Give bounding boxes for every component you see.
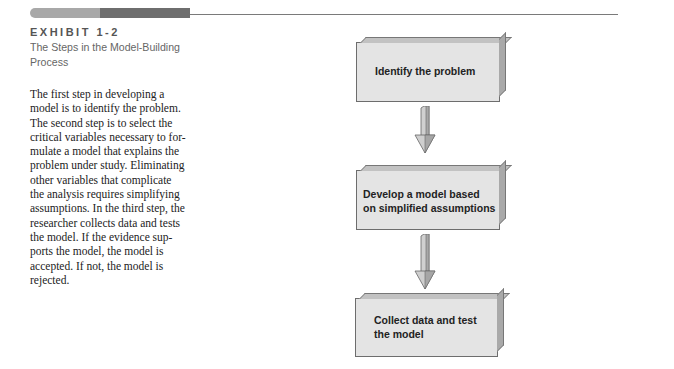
caption-line: The first step in developing a bbox=[30, 87, 230, 101]
down-arrow-icon bbox=[413, 106, 437, 154]
step-label: Collect data and test the model bbox=[374, 313, 477, 341]
caption-line: the analysis requires simplifying bbox=[30, 187, 230, 201]
caption-line: ports the model, the model is bbox=[30, 244, 230, 258]
exhibit-number: EXHIBIT 1-2 bbox=[30, 26, 120, 38]
header-rule bbox=[190, 14, 618, 15]
caption-line: The second step is to select the bbox=[30, 116, 230, 130]
exhibit-title: The Steps in the Model-Building Process bbox=[30, 40, 205, 70]
step-label: Identify the problem bbox=[375, 64, 475, 78]
caption-line: model is to identify the problem. bbox=[30, 101, 230, 115]
down-arrow-icon bbox=[413, 234, 437, 290]
caption-line: assumptions. In the third step, the bbox=[30, 201, 230, 215]
caption-line: other variables that complicate bbox=[30, 173, 230, 187]
caption-line: mulate a model that explains the bbox=[30, 144, 230, 158]
caption-line: researcher collects data and tests bbox=[30, 216, 230, 230]
step-label: Develop a model based on simplified assu… bbox=[363, 187, 495, 215]
exhibit-header-bar bbox=[30, 8, 190, 18]
caption-line: critical variables necessary to for- bbox=[30, 130, 230, 144]
caption-line: accepted. If not, the model is bbox=[30, 259, 230, 273]
flow-step-develop-model: Develop a model based on simplified assu… bbox=[356, 170, 500, 230]
caption-line: the model. If the evidence sup- bbox=[30, 230, 230, 244]
caption-line: rejected. bbox=[30, 273, 230, 287]
caption-line: problem under study. Eliminating bbox=[30, 158, 230, 172]
flow-step-collect-data: Collect data and test the model bbox=[355, 298, 498, 357]
exhibit-caption: The first step in developing a model is … bbox=[30, 87, 230, 287]
flow-step-identify-problem: Identify the problem bbox=[356, 42, 500, 102]
